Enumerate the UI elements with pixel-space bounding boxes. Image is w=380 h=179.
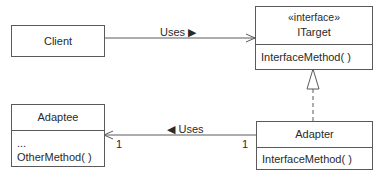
attribute-ellipsis: ... xyxy=(17,137,26,150)
association-label-client-uses: Uses ▶ xyxy=(160,26,197,39)
hollow-triangle-arrowhead-icon xyxy=(307,69,319,89)
stereotype-label: «interface» xyxy=(256,11,372,24)
class-header: Adaptee xyxy=(12,105,104,130)
class-client: Client xyxy=(11,25,105,57)
class-name: Adapter xyxy=(257,128,372,141)
class-adapter: Adapter InterfaceMethod( ) xyxy=(256,121,373,170)
methods-compartment: InterfaceMethod( ) xyxy=(256,44,372,69)
methods-compartment: InterfaceMethod( ) xyxy=(257,147,372,169)
method-item: InterfaceMethod( ) xyxy=(262,153,352,166)
multiplicity-adapter-end: 1 xyxy=(242,138,248,151)
class-header: Adapter xyxy=(257,122,372,147)
multiplicity-adaptee-end: 1 xyxy=(116,138,122,151)
association-label-adapter-uses: ◀ Uses xyxy=(167,123,204,136)
class-header: «interface» ITarget xyxy=(256,7,372,44)
members-compartment: ... OtherMethod( ) xyxy=(12,130,104,166)
class-name: ITarget xyxy=(256,26,372,39)
class-name: Adaptee xyxy=(12,111,104,124)
class-adaptee: Adaptee ... OtherMethod( ) xyxy=(11,104,105,167)
class-itarget: «interface» ITarget InterfaceMethod( ) xyxy=(255,6,373,70)
class-name: Client xyxy=(12,35,104,48)
method-item: InterfaceMethod( ) xyxy=(261,51,351,64)
method-item: OtherMethod( ) xyxy=(17,151,92,164)
